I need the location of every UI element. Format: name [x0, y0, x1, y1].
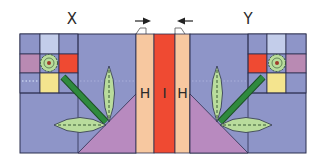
flower-icon — [41, 55, 58, 72]
label-y: Y — [242, 10, 253, 28]
quilt-diagram: X Y — [0, 0, 318, 165]
strip-label-h-right: H — [177, 85, 188, 101]
block-y — [190, 34, 306, 153]
center-strips: H I H — [136, 34, 190, 153]
arrow-left-icon — [177, 18, 193, 25]
fold-tab-right — [175, 28, 185, 34]
arrow-right-icon — [135, 18, 151, 25]
flower-icon — [269, 55, 286, 72]
label-x: X — [67, 10, 77, 28]
fold-tab-left — [136, 28, 146, 34]
strip-label-i: I — [162, 85, 166, 101]
block-x — [20, 34, 136, 153]
strip-label-h-left: H — [140, 85, 151, 101]
